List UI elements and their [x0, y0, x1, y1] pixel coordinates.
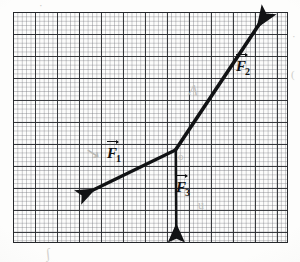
vector-arrow-accent-f2: [236, 54, 247, 55]
vector-label-f3-subscript: 3: [185, 187, 190, 198]
graph-paper-area: [13, 12, 288, 243]
pencil-mark-above-grid: ·: [39, 0, 43, 11]
grid-border: [13, 12, 288, 243]
pencil-mark-right-margin-2: (: [291, 68, 295, 80]
pencil-mark-right-margin: ·: [292, 30, 296, 42]
vector-label-f1-subscript: 1: [116, 153, 121, 164]
vector-label-f2: F2: [236, 58, 251, 74]
pencil-mark-below-grid: ∫: [45, 246, 50, 262]
vector-label-f3: F3: [176, 179, 191, 195]
vector-arrow-accent-f1: [107, 141, 118, 142]
vector-arrow-accent-f3: [176, 175, 187, 176]
vector-label-f1: F1: [107, 145, 122, 161]
vector-label-f2-subscript: 2: [245, 66, 250, 77]
scanned-figure-page: · ↘ A o u ∫ · ( F1: [0, 0, 300, 262]
